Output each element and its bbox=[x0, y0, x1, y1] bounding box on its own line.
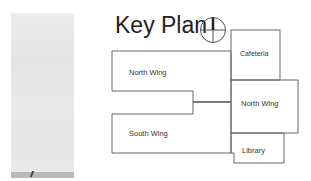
room-south-wing[interactable] bbox=[112, 102, 231, 153]
label-library: Library bbox=[242, 146, 265, 155]
label-north-wing-left: North Wing bbox=[129, 68, 167, 77]
label-cafeteria: Cafeteria bbox=[240, 50, 268, 57]
label-north-wing-right: North Wing bbox=[241, 99, 279, 108]
north-arrow-compass-icon bbox=[201, 18, 226, 43]
label-south-wing: South Wing bbox=[129, 129, 168, 138]
